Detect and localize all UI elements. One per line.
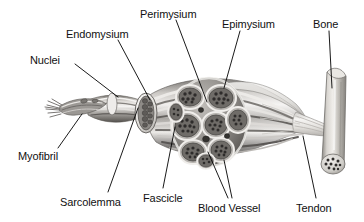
label-endomysium: Endomysium bbox=[66, 28, 129, 40]
label-fascicle: Fascicle bbox=[143, 192, 183, 204]
label-tendon: Tendon bbox=[296, 202, 332, 214]
label-blood-vessel: Blood Vessel bbox=[198, 202, 260, 214]
sarcolemma-collar bbox=[107, 93, 117, 115]
label-bone: Bone bbox=[313, 18, 338, 30]
leader-myofibril bbox=[58, 114, 82, 148]
bone bbox=[321, 68, 346, 174]
leader-tendon bbox=[303, 136, 316, 198]
leader-endomysium bbox=[118, 40, 150, 100]
label-epimysium: Epimysium bbox=[222, 18, 275, 30]
label-nuclei: Nuclei bbox=[30, 54, 60, 66]
label-sarcolemma: Sarcolemma bbox=[60, 196, 121, 208]
muscle-anatomy-diagram: Nuclei Endomysium Perimysium Epimysium B… bbox=[0, 0, 364, 222]
anatomy-illustration bbox=[0, 0, 364, 222]
label-myofibril: Myofibril bbox=[18, 150, 58, 162]
label-perimysium: Perimysium bbox=[140, 8, 196, 20]
leader-nuclei bbox=[75, 64, 118, 97]
